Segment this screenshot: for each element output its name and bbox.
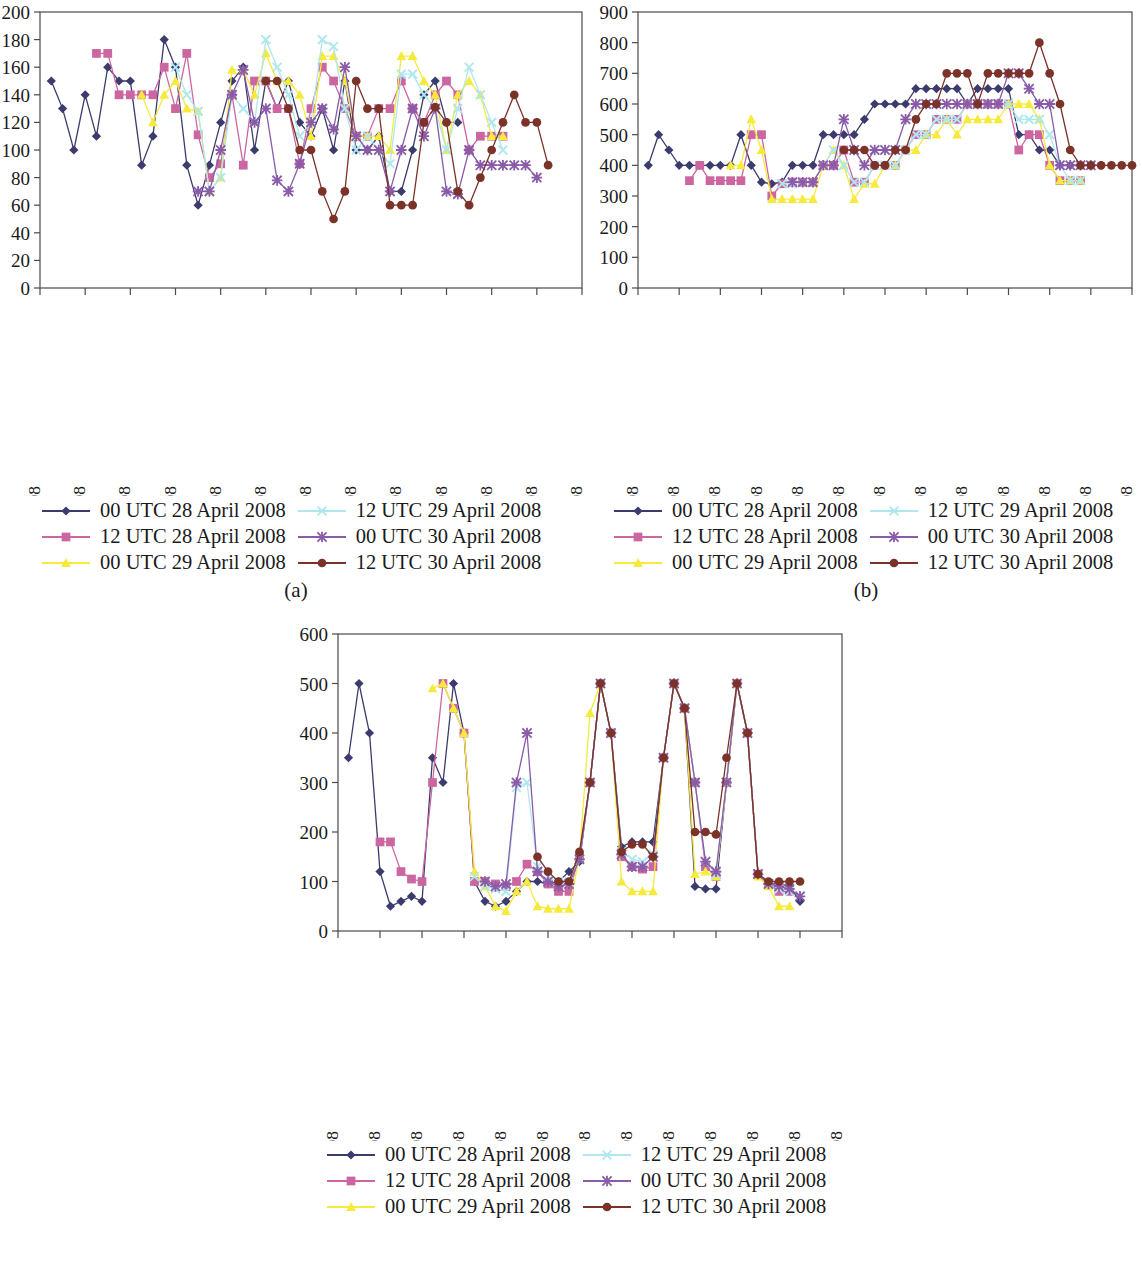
svg-text:00 UTC 03 May 2008: 00 UTC 03 May 2008 [742,1131,762,1141]
legend-label: 12 UTC 29 April 2008 [641,1142,827,1167]
svg-text:500: 500 [600,125,629,146]
svg-text:180: 180 [2,30,31,51]
svg-text:12 UTC 03 May 2008: 12 UTC 03 May 2008 [1075,486,1095,496]
svg-text:600: 600 [600,94,629,115]
legend-marker-00-utc-30-april-icon [581,1172,633,1190]
legend-marker-00-utc-30-april-icon [296,528,348,546]
svg-text:600: 600 [300,624,329,645]
svg-text:300: 300 [600,186,629,207]
chart-b-xtick-labels: 00 UTC 28 April 200812 UTC 28 April 2008… [590,296,1142,496]
legend-marker-12-utc-30-april-icon [296,554,348,572]
svg-text:12 UTC 30 April 2008: 12 UTC 30 April 2008 [828,486,848,496]
legend-item: 12 UTC 30 April 2008 [581,1194,827,1219]
svg-text:200: 200 [600,217,629,238]
svg-text:00 UTC 01 May 2008: 00 UTC 01 May 2008 [869,486,889,496]
svg-text:200: 200 [300,822,329,843]
svg-text:12 UTC 01 May 2008: 12 UTC 01 May 2008 [340,486,360,496]
legend-label: 00 UTC 29 April 2008 [672,550,858,575]
svg-text:20: 20 [11,250,30,271]
legend-item: 12 UTC 30 April 2008 [296,550,542,575]
svg-text:0: 0 [319,921,329,942]
svg-text:12 UTC 02 May 2008: 12 UTC 02 May 2008 [993,486,1013,496]
svg-text:100: 100 [600,247,629,268]
legend-item: 12 UTC 28 April 2008 [325,1168,571,1193]
svg-text:40: 40 [11,223,30,244]
svg-text:12 UTC 03 May 2008: 12 UTC 03 May 2008 [784,1131,804,1141]
svg-text:00 UTC 02 May 2008: 00 UTC 02 May 2008 [658,1131,678,1141]
legend-item: 00 UTC 28 April 2008 [325,1142,571,1167]
legend-item: 00 UTC 30 April 2008 [581,1168,827,1193]
legend-label: 12 UTC 29 April 2008 [928,498,1114,523]
chart-c-svg: 0100200300400500600 [270,620,870,945]
legend-item: 12 UTC 30 April 2008 [868,550,1114,575]
svg-text:00 UTC 30 April 2008: 00 UTC 30 April 2008 [205,486,225,496]
svg-text:00 UTC 28 April 2008: 00 UTC 28 April 2008 [322,1131,342,1141]
legend-item: 00 UTC 29 April 2008 [325,1194,571,1219]
svg-text:00 UTC 29 April 2008: 00 UTC 29 April 2008 [704,486,724,496]
svg-text:00 UTC 03 May 2008: 00 UTC 03 May 2008 [476,486,496,496]
svg-text:00 UTC 28 April 2008: 00 UTC 28 April 2008 [622,486,642,496]
caption-a: (a) [0,578,592,603]
legend-marker-00-utc-30-april-icon [868,528,920,546]
legend-item: 00 UTC 28 April 2008 [612,498,858,523]
svg-text:12 UTC 29 April 2008: 12 UTC 29 April 2008 [160,486,180,496]
legend-item: 00 UTC 30 April 2008 [296,524,542,549]
svg-text:60: 60 [11,195,30,216]
legend-label: 12 UTC 30 April 2008 [928,550,1114,575]
legend-label: 00 UTC 28 April 2008 [100,498,286,523]
svg-text:80: 80 [11,168,30,189]
chart-a-svg: 020406080100120140160180200 [0,0,592,300]
svg-text:00 UTC 04 May 2008: 00 UTC 04 May 2008 [1116,486,1136,496]
legend-marker-12-utc-28-april-icon [325,1172,377,1190]
svg-text:12 UTC 28 April 2008: 12 UTC 28 April 2008 [663,486,683,496]
legend-marker-00-utc-29-april-icon [325,1198,377,1216]
svg-text:800: 800 [600,33,629,54]
svg-text:00 UTC 29 April 2008: 00 UTC 29 April 2008 [406,1131,426,1141]
svg-text:12 UTC 02 May 2008: 12 UTC 02 May 2008 [431,486,451,496]
legend-label: 00 UTC 29 April 2008 [100,550,286,575]
legend-label: 12 UTC 30 April 2008 [356,550,542,575]
legend-label: 12 UTC 30 April 2008 [641,1194,827,1219]
legend-marker-00-utc-29-april-icon [40,554,92,572]
chart-b-plot: 0100200300400500600700800900 [590,0,1142,300]
legend-marker-00-utc-28-april-icon [325,1146,377,1164]
legend-label: 00 UTC 28 April 2008 [672,498,858,523]
svg-text:12 UTC 01 May 2008: 12 UTC 01 May 2008 [616,1131,636,1141]
panel-c: 0100200300400500600 00 UTC 28 April 2008… [270,620,870,1270]
svg-text:12 UTC 28 April 2008: 12 UTC 28 April 2008 [69,486,89,496]
legend-label: 00 UTC 30 April 2008 [356,524,542,549]
legend-item: 12 UTC 29 April 2008 [581,1142,827,1167]
svg-text:200: 200 [2,2,31,23]
legend-marker-12-utc-30-april-icon [868,554,920,572]
legend-label: 00 UTC 29 April 2008 [385,1194,571,1219]
chart-a-plot: 020406080100120140160180200 [0,0,592,300]
caption-b: (b) [590,578,1142,603]
chart-a-legend: 00 UTC 28 April 2008 12 UTC 29 April 200… [40,498,541,575]
legend-item: 12 UTC 29 April 2008 [868,498,1114,523]
chart-c-plot: 0100200300400500600 [270,620,870,945]
legend-label: 12 UTC 28 April 2008 [672,524,858,549]
legend-marker-00-utc-28-april-icon [40,502,92,520]
svg-text:140: 140 [2,85,31,106]
legend-item: 00 UTC 29 April 2008 [40,550,286,575]
svg-text:00 UTC 04 May 2008: 00 UTC 04 May 2008 [566,486,586,496]
svg-text:00 UTC 30 April 2008: 00 UTC 30 April 2008 [787,486,807,496]
legend-item: 00 UTC 30 April 2008 [868,524,1114,549]
svg-text:00 UTC 04 May 2008: 00 UTC 04 May 2008 [826,1131,846,1141]
svg-text:12 UTC 28 April 2008: 12 UTC 28 April 2008 [364,1131,384,1141]
svg-text:00 UTC 30 April 2008: 00 UTC 30 April 2008 [490,1131,510,1141]
legend-label: 00 UTC 30 April 2008 [641,1168,827,1193]
legend-item: 00 UTC 29 April 2008 [612,550,858,575]
svg-text:12 UTC 02 May 2008: 12 UTC 02 May 2008 [700,1131,720,1141]
chart-c-legend: 00 UTC 28 April 2008 12 UTC 29 April 200… [325,1142,826,1219]
legend-marker-12-utc-28-april-icon [40,528,92,546]
svg-text:100: 100 [2,140,31,161]
svg-text:500: 500 [300,674,329,695]
svg-text:00 UTC 02 May 2008: 00 UTC 02 May 2008 [951,486,971,496]
legend-item: 12 UTC 29 April 2008 [296,498,542,523]
legend-marker-12-utc-29-april-icon [581,1146,633,1164]
svg-text:12 UTC 29 April 2008: 12 UTC 29 April 2008 [746,486,766,496]
chart-c-xtick-labels: 00 UTC 28 April 200812 UTC 28 April 2008… [270,941,870,1141]
svg-text:00 UTC 03 May 2008: 00 UTC 03 May 2008 [1034,486,1054,496]
chart-b-legend: 00 UTC 28 April 2008 12 UTC 29 April 200… [612,498,1113,575]
